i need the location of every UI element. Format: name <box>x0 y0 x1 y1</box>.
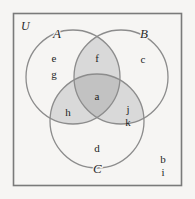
element-label-h: h <box>65 106 71 118</box>
element-label-a: a <box>95 90 100 102</box>
set-label-a: A <box>52 26 61 41</box>
element-label-k: k <box>125 116 131 128</box>
set-label-c: C <box>93 161 102 176</box>
element-label-b: b <box>160 153 166 165</box>
venn-diagram-svg: A B C U e g c f a h j k d b i <box>0 0 195 199</box>
element-label-c: c <box>141 53 146 65</box>
element-label-j: j <box>125 103 129 115</box>
element-label-e: e <box>52 52 57 64</box>
element-label-g: g <box>51 68 57 80</box>
element-label-d: d <box>94 142 100 154</box>
universal-set-label: U <box>21 19 31 33</box>
venn-diagram-canvas: A B C U e g c f a h j k d b i <box>0 0 195 199</box>
element-label-i: i <box>161 166 164 178</box>
set-label-b: B <box>140 26 148 41</box>
element-label-f: f <box>95 52 99 64</box>
